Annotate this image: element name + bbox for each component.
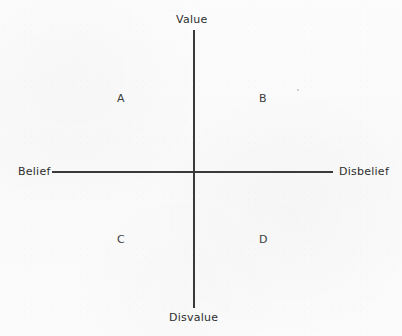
axis-label-disvalue: Disvalue xyxy=(169,311,218,324)
axis-label-disbelief: Disbelief xyxy=(339,165,389,178)
quadrant-label-c: C xyxy=(117,233,125,246)
horizontal-axis-line xyxy=(52,171,333,173)
quadrant-label-a: A xyxy=(117,92,125,105)
axis-label-value: Value xyxy=(176,13,207,26)
quadrant-diagram: Value Disvalue Belief Disbelief A B C D xyxy=(0,0,402,336)
scan-artifact-fleck xyxy=(297,89,299,91)
quadrant-label-b: B xyxy=(259,92,267,105)
quadrant-label-d: D xyxy=(259,233,268,246)
axis-label-belief: Belief xyxy=(18,165,51,178)
vertical-axis-line xyxy=(193,30,195,308)
